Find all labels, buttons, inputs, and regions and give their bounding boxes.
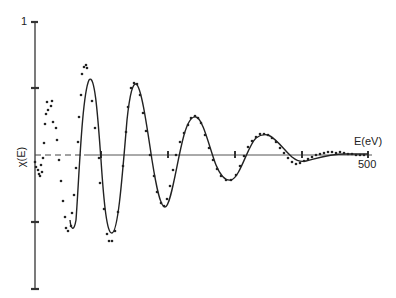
- y-axis-label: χ(E): [15, 147, 27, 167]
- experiment-dots: [34, 64, 366, 243]
- y-top-label: 1: [21, 15, 27, 27]
- theory-curve: [70, 79, 368, 233]
- exafs-chart: 1 500 E(eV) χ(E): [0, 0, 396, 298]
- x-axis-label: E(eV): [354, 135, 382, 147]
- x-end-label: 500: [358, 158, 376, 170]
